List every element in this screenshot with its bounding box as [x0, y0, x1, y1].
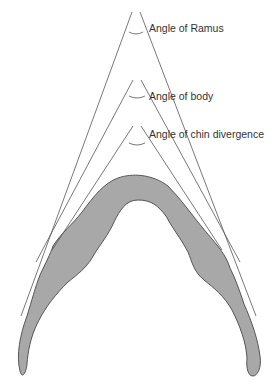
mandible-bone	[18, 175, 260, 376]
mandible-diagram: Angle of Ramus Angle of body Angle of ch…	[0, 0, 275, 386]
label-angle-of-ramus: Angle of Ramus	[149, 22, 224, 34]
label-angle-of-body: Angle of body	[149, 90, 214, 102]
label-angle-of-chin-divergence: Angle of chin divergence	[149, 128, 264, 140]
